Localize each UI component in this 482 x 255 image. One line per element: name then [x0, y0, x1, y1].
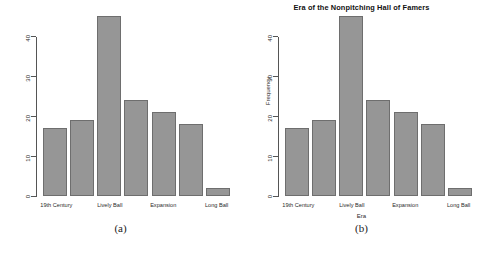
y-axis-tick	[273, 156, 278, 157]
bar	[206, 188, 230, 196]
x-axis-tick-label: Lively Ball	[97, 202, 122, 208]
y-axis-tick-label: 0	[25, 195, 31, 225]
figure-container: 010203040 19th CenturyLively BallExpansi…	[0, 0, 482, 255]
y-axis-tick-label: 10	[267, 155, 273, 185]
bar	[152, 112, 176, 196]
y-axis-tick	[31, 196, 36, 197]
y-axis-tick	[273, 196, 278, 197]
bar	[97, 16, 121, 196]
y-axis-tick	[31, 116, 36, 117]
x-axis-tick-label: 19th Century	[282, 202, 314, 208]
y-axis-tick	[273, 76, 278, 77]
x-axis-tick-label: Expansion	[150, 202, 176, 208]
y-axis-tick	[31, 36, 36, 37]
bar	[421, 124, 445, 196]
y-axis-tick	[31, 156, 36, 157]
y-axis-tick-label: 40	[25, 35, 31, 65]
x-axis-tick-label: 19th Century	[40, 202, 72, 208]
bar	[124, 100, 148, 196]
panel-b-y-axis-title: Frequency	[265, 77, 271, 105]
bar	[70, 120, 94, 196]
y-axis-tick-label: 20	[25, 115, 31, 145]
panel-b-caption: (b)	[241, 222, 482, 234]
bar	[448, 188, 472, 196]
bar	[312, 120, 336, 196]
panel-a-caption: (a)	[0, 222, 241, 234]
x-axis-tick-label: Lively Ball	[339, 202, 364, 208]
x-axis-tick-label: Expansion	[392, 202, 418, 208]
panel-b-title: Era of the Nonpitching Hall of Famers	[241, 3, 482, 12]
bar	[179, 124, 203, 196]
x-axis-tick-label: Long Ball	[205, 202, 228, 208]
panel-a-plot-area	[43, 14, 230, 196]
y-axis-tick-label: 30	[25, 75, 31, 105]
bar	[394, 112, 418, 196]
y-axis-tick	[273, 36, 278, 37]
panel-b-x-axis-title: Era	[241, 213, 482, 219]
bar	[285, 128, 309, 196]
panel-a-y-axis	[36, 37, 37, 197]
panel-a-bars	[43, 14, 230, 196]
y-axis-tick-label: 20	[267, 115, 273, 145]
y-axis-tick-label: 40	[267, 35, 273, 65]
y-axis-tick-label: 10	[25, 155, 31, 185]
y-axis-tick	[31, 76, 36, 77]
bar	[366, 100, 390, 196]
panel-b: Era of the Nonpitching Hall of Famers 01…	[241, 0, 482, 255]
panel-b-bars	[285, 14, 472, 196]
panel-a: 010203040 19th CenturyLively BallExpansi…	[0, 0, 241, 255]
y-axis-tick	[273, 116, 278, 117]
panel-b-y-axis	[278, 37, 279, 197]
x-axis-tick-label: Long Ball	[447, 202, 470, 208]
y-axis-tick-label: 0	[267, 195, 273, 225]
panel-b-plot-area	[285, 14, 472, 196]
bar	[339, 16, 363, 196]
bar	[43, 128, 67, 196]
